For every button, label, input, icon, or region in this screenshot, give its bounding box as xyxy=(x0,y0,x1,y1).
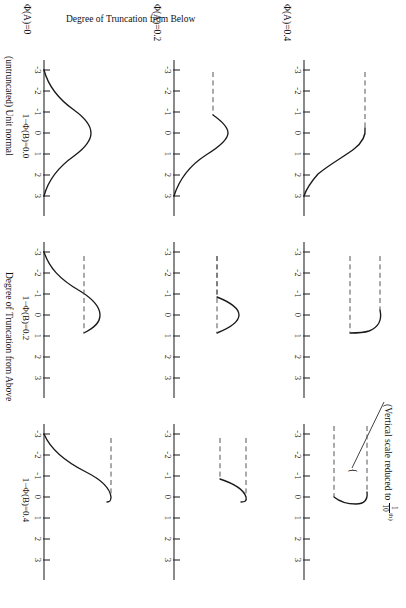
tick-label: -2 xyxy=(33,87,42,94)
curve-r2c1 xyxy=(28,234,136,402)
tick-label: 1 xyxy=(293,152,302,156)
tick-label: -3 xyxy=(33,248,42,255)
plot-area: -3 -2 -1 0 1 2 3 xyxy=(28,52,136,220)
tick-label: 3 xyxy=(163,376,172,380)
tick-label: 1 xyxy=(33,152,42,156)
tick-label: 3 xyxy=(33,376,42,380)
tick-label: 3 xyxy=(163,194,172,198)
tick-label: 1 xyxy=(33,334,42,338)
tick-label: 2 xyxy=(293,537,302,541)
plot-area: -3 -2 -1 0 1 2 3 xyxy=(288,416,396,584)
tick-label: -3 xyxy=(163,248,172,255)
tick-label: -3 xyxy=(293,430,302,437)
tick-label: -2 xyxy=(293,87,302,94)
tick-label: 1 xyxy=(163,516,172,520)
figure-canvas: (Vertical scale reduced to 110th) { xyxy=(0,0,406,608)
tick-label: -2 xyxy=(163,451,172,458)
axis-title-left: Degree of Truncation from Below xyxy=(66,14,195,24)
figure-root: (Vertical scale reduced to 110th) { xyxy=(0,0,406,608)
tick-label: -1 xyxy=(33,108,42,115)
curve-r0c1 xyxy=(288,234,396,402)
curve-r1c2 xyxy=(158,416,266,584)
tick-label: 3 xyxy=(293,558,302,562)
tick-label: 3 xyxy=(293,376,302,380)
panel-r1c2: -3 -2 -1 0 1 2 3 xyxy=(154,416,266,584)
panel-r0c0: -3 -2 -1 0 1 2 3 xyxy=(284,52,396,220)
tick-label: -1 xyxy=(293,472,302,479)
tick-label: -3 xyxy=(293,248,302,255)
curve-r0c2 xyxy=(288,416,396,584)
tick-label: 0 xyxy=(33,495,42,499)
plot-area: -3 -2 -1 0 1 2 3 xyxy=(288,52,396,220)
curve-r2c0 xyxy=(28,52,136,220)
tick-label: 0 xyxy=(33,131,42,135)
tick-label: 0 xyxy=(293,313,302,317)
panel-r2c2: -3 -2 -1 0 1 2 3 1−Φ(B)=0.4 xyxy=(24,416,136,584)
panel-label-r2c1: 1−Φ(B)=0.2 xyxy=(21,296,31,340)
plot-area: -3 -2 -1 0 1 2 3 xyxy=(158,52,266,220)
tick-label: -2 xyxy=(163,87,172,94)
tick-label: -1 xyxy=(293,108,302,115)
tick-label: 1 xyxy=(163,334,172,338)
tick-label: 1 xyxy=(33,516,42,520)
tick-label: -3 xyxy=(33,66,42,73)
tick-label: 2 xyxy=(33,173,42,177)
tick-label: -3 xyxy=(163,430,172,437)
tick-label: 0 xyxy=(163,313,172,317)
tick-label: -3 xyxy=(293,66,302,73)
tick-label: 3 xyxy=(33,558,42,562)
curve-r1c1 xyxy=(158,234,266,402)
plot-area: -3 -2 -1 0 1 2 3 xyxy=(288,234,396,402)
tick-label: 2 xyxy=(293,173,302,177)
tick-label: -1 xyxy=(163,108,172,115)
plot-area: -3 -2 -1 0 1 2 3 xyxy=(28,416,136,584)
tick-label: -1 xyxy=(293,290,302,297)
tick-label: 2 xyxy=(163,537,172,541)
panel-r2c0: -3 -2 -1 0 1 2 3 1−Φ(B)=0.0 xyxy=(24,52,136,220)
tick-label: 2 xyxy=(163,173,172,177)
panel-r0c2: -3 -2 -1 0 1 2 3 xyxy=(284,416,396,584)
tick-label: 2 xyxy=(163,355,172,359)
panel-r1c1: -3 -2 -1 0 1 2 3 xyxy=(154,234,266,402)
tick-label: 0 xyxy=(293,495,302,499)
tick-label: 2 xyxy=(33,355,42,359)
panel-label-r2c0: 1−Φ(B)=0.0 xyxy=(21,114,31,158)
plot-area: -3 -2 -1 0 1 2 3 xyxy=(28,234,136,402)
tick-label: -1 xyxy=(163,290,172,297)
tick-label: -2 xyxy=(293,269,302,276)
tick-label: -1 xyxy=(33,290,42,297)
untruncated-caption: (untruncated) Unit normal xyxy=(4,56,14,156)
axis-title-bottom: Degree of Truncation from Above xyxy=(4,272,14,401)
panel-r1c0: -3 -2 -1 0 1 2 3 xyxy=(154,52,266,220)
row-label-phiA-00: Φ(A)=0 xyxy=(22,4,32,34)
plot-area: -3 -2 -1 0 1 2 3 xyxy=(158,416,266,584)
tick-label: -1 xyxy=(33,472,42,479)
panel-r0c1: -3 -2 -1 0 1 2 3 xyxy=(284,234,396,402)
panel-label-r2c2: 1−Φ(B)=0.4 xyxy=(21,478,31,522)
tick-label: 0 xyxy=(163,131,172,135)
tick-label: 3 xyxy=(293,194,302,198)
curve-r0c0 xyxy=(288,52,396,220)
tick-label: 3 xyxy=(163,558,172,562)
tick-label: -2 xyxy=(163,269,172,276)
tick-label: -2 xyxy=(33,451,42,458)
tick-label: -3 xyxy=(163,66,172,73)
row-label-phiA-04: Φ(A)=0.4 xyxy=(282,4,292,41)
plot-area: -3 -2 -1 0 1 2 3 xyxy=(158,234,266,402)
curve-r1c0 xyxy=(158,52,266,220)
tick-label: 1 xyxy=(163,152,172,156)
tick-label: 3 xyxy=(33,194,42,198)
tick-label: 2 xyxy=(293,355,302,359)
tick-label: 0 xyxy=(163,495,172,499)
tick-label: 1 xyxy=(293,516,302,520)
tick-label: -2 xyxy=(33,269,42,276)
panel-r2c1: -3 -2 -1 0 1 2 3 1−Φ(B)=0.2 xyxy=(24,234,136,402)
tick-label: 0 xyxy=(33,313,42,317)
tick-label: 0 xyxy=(293,131,302,135)
tick-label: 2 xyxy=(33,537,42,541)
tick-label: -1 xyxy=(163,472,172,479)
tick-label: 1 xyxy=(293,334,302,338)
tick-label: -3 xyxy=(33,430,42,437)
tick-label: -2 xyxy=(293,451,302,458)
curve-r2c2 xyxy=(28,416,136,584)
